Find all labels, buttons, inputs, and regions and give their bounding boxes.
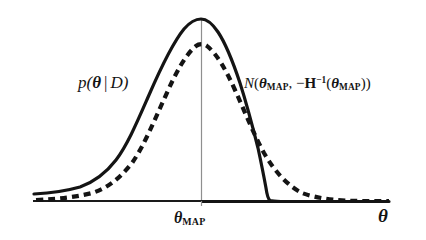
gaussian-label-minus: −: [296, 75, 304, 91]
x-axis-name-label: θ: [378, 206, 388, 225]
posterior-label-dataset: D: [110, 73, 122, 92]
gaussian-label-close-paren-1: ): [366, 75, 371, 91]
posterior-approximation-plot: [0, 0, 426, 240]
posterior-label-p: p: [78, 73, 87, 92]
gaussian-label-map-subscript-2: MAP: [339, 82, 361, 92]
laplace-approximation-figure: p(θ|D) N(θMAP, −H−1(θMAP)) θMAP θ: [0, 0, 426, 240]
gaussian-label-inverse-exponent: −1: [316, 75, 326, 85]
posterior-label-theta: θ: [92, 73, 101, 92]
posterior-curve: [34, 19, 389, 202]
gaussian-label-theta-1: θ: [259, 75, 267, 91]
gaussian-label-comma: ,: [289, 75, 293, 91]
gaussian-approximation-label: N(θMAP, −H−1(θMAP)): [244, 76, 371, 91]
gaussian-label-script-n: N: [244, 75, 254, 91]
gaussian-label-hessian: H: [305, 75, 317, 91]
theta-map-subscript: MAP: [182, 216, 205, 227]
gaussian-label-map-subscript-1: MAP: [267, 82, 289, 92]
x-axis-theta: θ: [378, 205, 388, 226]
posterior-label: p(θ|D): [78, 74, 128, 91]
posterior-label-bar: |: [101, 73, 110, 92]
posterior-label-close-paren: ): [123, 73, 129, 92]
theta-map-tick-label: θMAP: [174, 210, 205, 226]
gaussian-label-theta-2: θ: [331, 75, 339, 91]
gaussian-approximation-curve: [36, 44, 389, 201]
